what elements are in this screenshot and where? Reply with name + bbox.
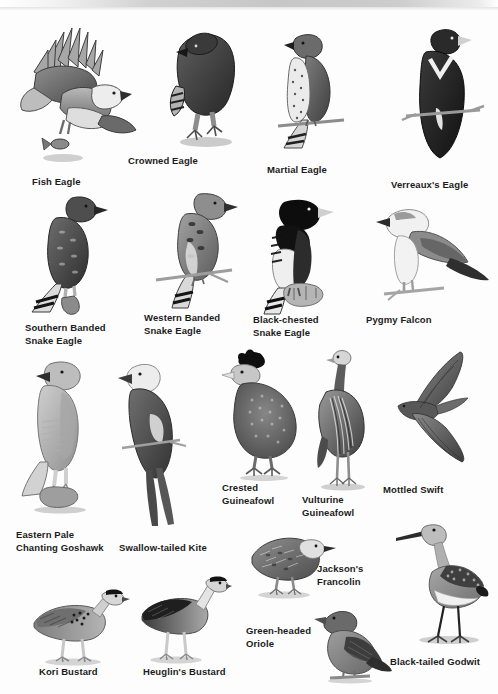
caption-pygmy-falcon: Pygmy Falcon: [366, 313, 432, 326]
bird-plate: Fish Eagle: [0, 0, 498, 694]
western-banded-snake-eagle-illustration: [148, 190, 240, 310]
figure-verreauxs-eagle: [396, 24, 488, 174]
kori-bustard-illustration: [30, 589, 130, 667]
figure-fish-eagle: [8, 22, 138, 172]
figure-martial-eagle: [272, 30, 352, 150]
crowned-eagle-illustration: [152, 26, 248, 154]
caption-green-headed-oriole: Green-headed Oriole: [246, 624, 311, 650]
caption-jacksons-francolin: Jackson's Francolin: [317, 562, 363, 588]
caption-verreauxs-eagle: Verreaux's Eagle: [391, 178, 468, 191]
caption-mottled-swift: Mottled Swift: [383, 483, 443, 496]
green-headed-oriole-illustration: [314, 607, 392, 683]
figure-eastern-pale-chanting-goshawk: [14, 358, 106, 513]
figure-kori-bustard: [30, 589, 130, 667]
caption-southern-banded-snake-eagle: Southern Banded Snake Eagle: [25, 321, 106, 347]
black-chested-snake-eagle-illustration: [254, 196, 340, 316]
caption-heuglins-bustard: Heuglin's Bustard: [143, 665, 226, 678]
caption-swallow-tailed-kite: Swallow-tailed Kite: [119, 541, 207, 554]
caption-crested-guineafowl: Crested Guineafowl: [222, 481, 274, 507]
caption-martial-eagle: Martial Eagle: [267, 163, 327, 176]
southern-banded-snake-eagle-illustration: [18, 192, 110, 317]
caption-kori-bustard: Kori Bustard: [39, 665, 98, 678]
mottled-swift-illustration: [380, 348, 490, 468]
figure-vulturine-guineafowl: [304, 348, 382, 493]
eastern-pale-chanting-goshawk-illustration: [14, 358, 106, 513]
caption-western-banded-snake-eagle: Western Banded Snake Eagle: [144, 311, 220, 337]
caption-crowned-eagle: Crowned Eagle: [128, 154, 198, 167]
figure-black-tailed-godwit: [394, 516, 490, 648]
figure-swallow-tailed-kite: [108, 358, 198, 528]
caption-black-tailed-godwit: Black-tailed Godwit: [390, 655, 480, 668]
crested-guineafowl-illustration: [220, 352, 308, 480]
vulturine-guineafowl-illustration: [304, 348, 382, 493]
black-tailed-godwit-illustration: [394, 516, 490, 648]
figure-heuglins-bustard: [140, 578, 232, 668]
figure-crowned-eagle: [152, 26, 248, 154]
pygmy-falcon-illustration: [372, 204, 490, 309]
figure-southern-banded-snake-eagle: [18, 192, 110, 317]
swallow-tailed-kite-illustration: [108, 358, 198, 528]
caption-vulturine-guineafowl: Vulturine Guineafowl: [302, 493, 354, 519]
caption-black-chested-snake-eagle: Black-chested Snake Eagle: [253, 313, 319, 339]
figure-mottled-swift: [380, 348, 490, 468]
caption-eastern-pale-chanting-goshawk: Eastern Pale Chanting Goshawk: [16, 528, 104, 554]
figure-crested-guineafowl: [220, 352, 308, 480]
figure-green-headed-oriole: [314, 607, 392, 683]
verreauxs-eagle-illustration: [396, 24, 488, 174]
fish-eagle-illustration: [8, 22, 138, 172]
heuglins-bustard-illustration: [140, 578, 232, 668]
figure-pygmy-falcon: [372, 204, 490, 309]
page-edge-highlight: [0, 7, 498, 11]
caption-fish-eagle: Fish Eagle: [32, 175, 81, 188]
figure-black-chested-snake-eagle: [254, 196, 340, 316]
figure-western-banded-snake-eagle: [148, 190, 240, 310]
martial-eagle-illustration: [272, 30, 352, 150]
